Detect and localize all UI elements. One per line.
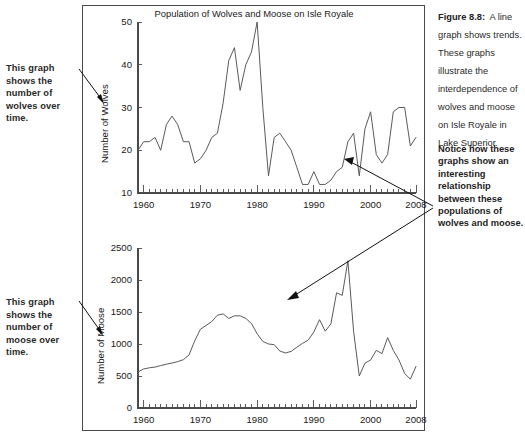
wolves-xtick-2000: 2000 bbox=[351, 199, 391, 210]
moose-ytick-2500: 2500 bbox=[90, 242, 132, 253]
annotation-moose-note: This graph shows the number of moose ove… bbox=[6, 296, 78, 359]
moose-xtick-2000: 2000 bbox=[351, 414, 391, 425]
moose-ytick-500: 500 bbox=[90, 370, 132, 381]
moose-ytick-1500: 1500 bbox=[90, 306, 132, 317]
wolves-ytick-10: 10 bbox=[90, 187, 132, 198]
wolves-ytick-20: 20 bbox=[90, 144, 132, 155]
moose-xtick-1990: 1990 bbox=[294, 414, 334, 425]
wolves-xtick-1990: 1990 bbox=[294, 199, 334, 210]
wolves-xtick-1970: 1970 bbox=[180, 199, 220, 210]
moose-series-line bbox=[138, 261, 416, 379]
moose-ytick-1000: 1000 bbox=[90, 338, 132, 349]
chart-wolves-title: Population of Wolves and Moose on Isle R… bbox=[86, 8, 422, 19]
figure-root: This graph shows the number of wolves ov… bbox=[0, 0, 525, 445]
figure-caption-notice: Notice how these graphs show an interest… bbox=[438, 143, 524, 230]
wolves-ytick-30: 30 bbox=[90, 102, 132, 113]
chart-wolves-plot bbox=[86, 8, 422, 216]
wolves-ytick-40: 40 bbox=[90, 59, 132, 70]
figure-caption: Figure 8.8: A line graph shows trends. T… bbox=[438, 6, 522, 150]
wolves-ytick-50: 50 bbox=[90, 16, 132, 27]
moose-xtick-1970: 1970 bbox=[180, 414, 220, 425]
moose-xtick-1960: 1960 bbox=[124, 414, 164, 425]
moose-ytick-2000: 2000 bbox=[90, 274, 132, 285]
wolves-xtick-2008: 2008 bbox=[396, 199, 436, 210]
figure-caption-body: A line graph shows trends. These graphs … bbox=[438, 12, 522, 148]
wolves-series-line bbox=[138, 22, 416, 184]
figure-label: Figure 8.8: bbox=[438, 12, 485, 22]
moose-ytick-0: 0 bbox=[90, 402, 132, 413]
wolves-xtick-1980: 1980 bbox=[237, 199, 277, 210]
moose-xtick-2008: 2008 bbox=[396, 414, 436, 425]
wolves-xtick-1960: 1960 bbox=[124, 199, 164, 210]
chart-moose-plot bbox=[86, 234, 422, 430]
chart-wolves: Population of Wolves and Moose on Isle R… bbox=[86, 8, 422, 216]
chart-moose: Number of Moose 050010001500200025001960… bbox=[86, 234, 422, 430]
annotation-wolves-note: This graph shows the number of wolves ov… bbox=[6, 62, 78, 125]
moose-xtick-1980: 1980 bbox=[237, 414, 277, 425]
